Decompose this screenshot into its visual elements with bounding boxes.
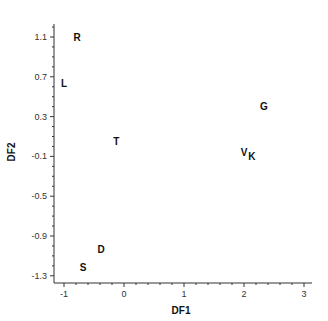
y-tick-label: 1.1 [34, 32, 47, 42]
y-tick-label: 0.3 [34, 112, 47, 122]
point-label-s: S [80, 262, 87, 273]
point-label-g: G [260, 101, 268, 112]
point-label-k: K [248, 151, 256, 162]
x-tick-label: 2 [241, 289, 246, 299]
x-tick-label: 1 [181, 289, 186, 299]
point-label-r: R [74, 32, 82, 43]
x-tick-label: -1 [60, 289, 68, 299]
y-tick-label: 0.7 [34, 72, 47, 82]
x-axis-title: DF1 [172, 305, 191, 316]
scatter-chart: -10123 1.10.70.3-0.1-0.5-0.9-1.3 RLGTVKD… [0, 0, 328, 321]
point-label-l: L [61, 78, 67, 89]
point-label-t: T [113, 136, 119, 147]
axes [54, 24, 312, 283]
x-axis-ticks: -10123 [60, 283, 307, 299]
data-points: RLGTVKDS [61, 32, 268, 273]
x-tick-label: 0 [121, 289, 126, 299]
point-label-v: V [241, 147, 248, 158]
x-tick-label: 3 [301, 289, 306, 299]
y-tick-label: -0.9 [31, 231, 47, 241]
y-tick-label: -0.1 [31, 151, 47, 161]
y-axis-title: DF2 [6, 142, 17, 161]
y-axis-ticks: 1.10.70.3-0.1-0.5-0.9-1.3 [31, 27, 54, 281]
y-tick-label: -0.5 [31, 191, 47, 201]
point-label-d: D [98, 244, 105, 255]
y-tick-label: -1.3 [31, 271, 47, 281]
